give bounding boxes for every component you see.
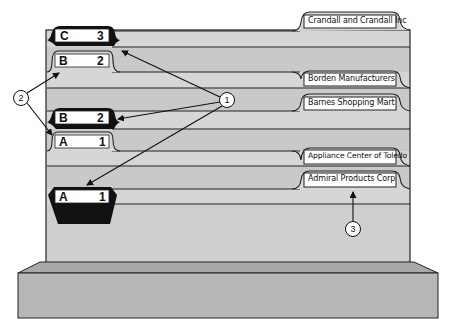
callout-2: 2: [13, 90, 29, 106]
guide-b2-special-number: 2: [97, 54, 104, 68]
callout-3: 3: [345, 221, 361, 237]
folder-tab-crandall: Crandall and Crandall Inc: [308, 16, 407, 25]
folder-tab-borden: Borden Manufacturers: [308, 74, 395, 83]
drawer-illustration: [0, 0, 453, 328]
guide-c3-number: 3: [97, 29, 104, 43]
guide-a1-special-letter: A: [59, 135, 68, 149]
callout-1: 1: [219, 92, 235, 108]
guide-c3-letter: C: [60, 29, 69, 43]
guide-b2-special-letter: B: [59, 54, 68, 68]
guide-a1-number: 1: [99, 190, 106, 204]
folder-tab-admiral: Admiral Products Corp: [308, 174, 395, 183]
file-drawer-diagram: C 3 B 2 B 2 A 1 A 1 Crandall and Crandal…: [0, 0, 453, 328]
guide-b2-number: 2: [97, 111, 104, 125]
drawer-base: [18, 262, 438, 318]
guide-b2-letter: B: [59, 111, 68, 125]
guide-a1-letter: A: [59, 190, 68, 204]
guide-a1-special-number: 1: [99, 135, 106, 149]
folder-tab-appliance: Appliance Center of Toledo: [308, 151, 407, 160]
folder-tab-barnes: Barnes Shopping Mart: [308, 98, 395, 107]
